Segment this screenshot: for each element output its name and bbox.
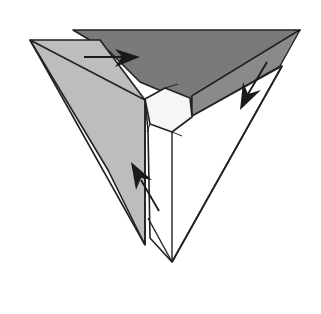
- fold-diagram: Triangular pyramid folding step with thr…: [0, 0, 321, 314]
- diagram-svg: [0, 0, 321, 314]
